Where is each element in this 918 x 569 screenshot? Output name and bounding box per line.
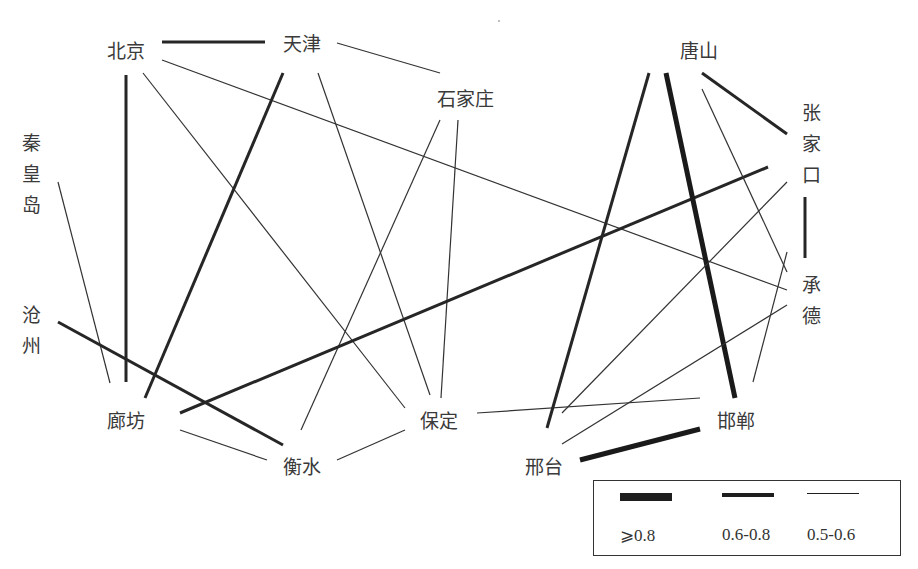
edge-唐山-邯郸: [666, 73, 735, 398]
edge-保定-邯郸: [477, 398, 700, 413]
legend: ⩾0.8 0.6-0.8 0.5-0.6: [593, 480, 901, 556]
legend-label-strong: ⩾0.8: [620, 525, 655, 546]
edge-张家口-邢台: [562, 182, 787, 413]
node-label-qinhuangdao: 秦皇岛: [20, 133, 39, 226]
edge-衡水-保定: [337, 430, 405, 460]
legend-item-strong: ⩾0.8: [620, 481, 700, 555]
node-label-zhangjiakou: 张家口: [800, 103, 819, 196]
legend-swatch-thick: [620, 493, 672, 501]
node-label-chengde: 承德: [800, 275, 819, 337]
node-label-shijiazhuang: 石家庄: [437, 90, 494, 109]
node-label-tianjin: 天津: [283, 35, 321, 54]
edge-唐山-张家口: [702, 73, 787, 134]
edge-天津-廊坊: [145, 73, 283, 398]
edge-天津-石家庄: [337, 43, 440, 73]
edge-唐山-邢台: [547, 73, 649, 428]
node-label-xingtai: 邢台: [525, 458, 563, 477]
edge-北京-保定: [143, 73, 405, 408]
node-label-handan: 邯郸: [717, 412, 755, 431]
edge-石家庄-衡水: [301, 120, 440, 430]
node-label-cangzhou: 沧州: [20, 305, 39, 367]
legend-item-weak: 0.5-0.6: [807, 481, 897, 555]
node-label-langfang: 廊坊: [107, 412, 145, 431]
node-label-baoding: 保定: [420, 412, 458, 431]
legend-swatch-medium: [722, 493, 774, 497]
edge-承德-邯郸: [753, 252, 787, 382]
stray-dot: [498, 20, 500, 22]
edge-廊坊-张家口: [180, 167, 768, 413]
edge-廊坊-衡水: [180, 430, 267, 460]
node-label-hengshui: 衡水: [283, 458, 321, 477]
legend-label-weak: 0.5-0.6: [807, 525, 855, 545]
edge-唐山-承德: [702, 89, 787, 272]
legend-label-medium: 0.6-0.8: [722, 525, 770, 545]
edge-邢台-邯郸: [580, 429, 700, 460]
node-label-tangshan: 唐山: [680, 42, 718, 61]
legend-item-medium: 0.6-0.8: [722, 481, 812, 555]
legend-swatch-thin: [807, 493, 859, 494]
edge-秦皇岛-廊坊: [58, 182, 110, 383]
node-label-beijing: 北京: [107, 42, 145, 61]
edge-石家庄-保定: [441, 120, 458, 398]
